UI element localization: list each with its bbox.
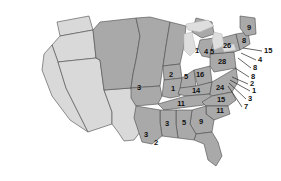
leader-1: 15: [264, 47, 272, 55]
label-alabama: 5: [182, 119, 186, 127]
label-tennessee: 11: [177, 100, 185, 108]
label-north-carolina: 15: [217, 96, 225, 104]
label-mississippi: 3: [165, 120, 169, 128]
label-maine: 9: [247, 24, 251, 32]
leader-2: 4: [258, 56, 262, 64]
label-michigan-2: 4: [204, 48, 208, 56]
label-missouri: 3: [137, 84, 141, 92]
label-new-york: 26: [223, 42, 231, 50]
leader-6: 1: [252, 87, 256, 95]
label-new-england: 8: [242, 37, 246, 45]
label-pennsylvania: 28: [218, 58, 226, 66]
leader-1-line: [243, 48, 262, 51]
state-oregon-idaho-west: [52, 30, 96, 62]
label-georgia: 9: [199, 118, 203, 126]
us-choropleth-map: 321516141128241511953321452689 154882137: [0, 0, 281, 181]
state-missouri: [131, 86, 162, 106]
label-michigan-3: 5: [210, 48, 214, 56]
label-south-carolina: 11: [216, 107, 224, 115]
label-ohio: 16: [196, 71, 204, 79]
label-kentucky: 14: [192, 87, 200, 95]
label-indiana: 5: [184, 73, 188, 81]
leader-7: 3: [248, 95, 252, 103]
leader-3: 8: [253, 64, 257, 72]
label-michigan-1: 1: [195, 47, 199, 55]
state-florida: [194, 132, 222, 166]
leader-2-line: [241, 53, 256, 60]
leader-3-line: [238, 58, 251, 68]
leader-8: 7: [244, 103, 248, 111]
label-iowa: 2: [169, 71, 173, 79]
label-virginia: 24: [216, 84, 224, 92]
label-illinois: 1: [171, 85, 175, 93]
label-louisiana: 3: [144, 131, 148, 139]
label-gulf-marker: 2: [154, 139, 158, 147]
